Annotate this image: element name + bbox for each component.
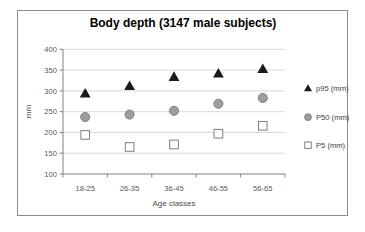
data-point-P50-18-25 xyxy=(81,113,90,122)
data-point-P5-56-65 xyxy=(258,121,267,130)
data-point-p95-56-65 xyxy=(257,63,268,73)
x-tick-label: 18-25 xyxy=(75,184,94,193)
data-point-P5-36-45 xyxy=(170,140,179,149)
data-point-P50-26-35 xyxy=(125,110,134,119)
x-tick-label: 26-35 xyxy=(120,184,139,193)
data-point-P50-36-45 xyxy=(169,106,178,115)
chart-canvas: Body depth (3147 male subjects) mm Age c… xyxy=(0,0,365,232)
data-point-p95-46-55 xyxy=(213,68,224,78)
data-point-p95-18-25 xyxy=(80,88,91,98)
data-point-p95-36-45 xyxy=(169,71,180,81)
data-point-P5-26-35 xyxy=(125,143,134,152)
data-point-P50-46-55 xyxy=(214,99,223,108)
plot-area: mm Age classes 10015020025030035040018-2… xyxy=(0,0,365,232)
data-point-P5-18-25 xyxy=(81,131,90,140)
data-point-P5-46-55 xyxy=(214,129,223,138)
y-tick-label: 250 xyxy=(44,107,57,116)
x-tick-label: 56-65 xyxy=(253,184,272,193)
x-axis-title: Age classes xyxy=(152,199,195,208)
data-point-P50-56-65 xyxy=(258,93,267,102)
y-tick-label: 150 xyxy=(44,149,57,158)
y-tick-label: 300 xyxy=(44,87,57,96)
y-tick-label: 100 xyxy=(44,170,57,179)
x-tick-label: 36-45 xyxy=(164,184,183,193)
y-tick-label: 200 xyxy=(44,128,57,137)
y-tick-label: 350 xyxy=(44,66,57,75)
chart-layer: 10015020025030035040018-2526-3536-4546-5… xyxy=(44,45,285,193)
y-tick-label: 400 xyxy=(44,45,57,54)
y-axis-title: mm xyxy=(24,105,33,119)
x-tick-label: 46-55 xyxy=(209,184,228,193)
data-point-p95-26-35 xyxy=(124,80,135,90)
